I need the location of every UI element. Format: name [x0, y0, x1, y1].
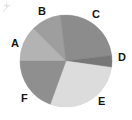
pie-slice-label-b: B	[38, 6, 46, 17]
pie-slice-label-f: F	[21, 93, 28, 104]
pie-slice-label-e: E	[98, 96, 105, 107]
pie-slice-label-d: D	[118, 52, 126, 63]
pie-chart-figure: A B C D E F	[0, 0, 132, 120]
pie-slice-label-c: C	[92, 9, 100, 20]
pie-slice-group	[20, 15, 112, 107]
faint-corner-mark-icon	[2, 2, 13, 13]
pie-slice-c	[60, 15, 111, 61]
pie-chart-svg	[0, 0, 132, 120]
pie-slice-label-a: A	[11, 38, 19, 49]
